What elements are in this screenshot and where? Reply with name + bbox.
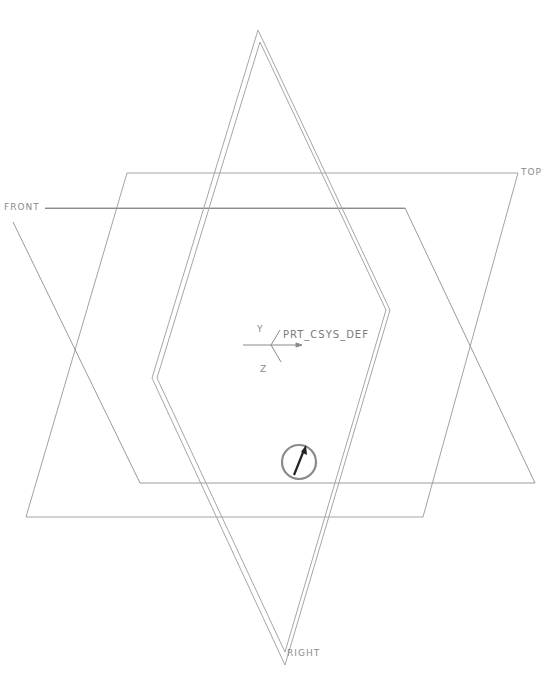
datum-geometry [0, 0, 551, 677]
model-viewport[interactable]: FRONT TOP RIGHT PRT_CSYS_DEF Y Z [0, 0, 551, 677]
datum-label-top: TOP [521, 167, 542, 177]
datum-label-right: RIGHT [287, 648, 320, 658]
csys-label: PRT_CSYS_DEF [283, 329, 369, 340]
spin-center-icon[interactable] [282, 445, 316, 479]
datum-label-front: FRONT [4, 202, 40, 212]
csys-axis-z: Z [260, 364, 266, 374]
datum-plane-right[interactable] [152, 30, 390, 665]
csys-axis-y: Y [257, 324, 263, 334]
